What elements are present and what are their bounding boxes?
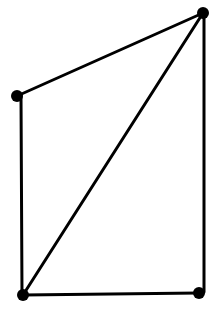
edge-left-bottom-left — [21, 96, 22, 295]
graph-diagram — [0, 0, 221, 321]
node-bottom-right — [193, 287, 205, 299]
edges-group — [17, 13, 204, 295]
node-left — [11, 90, 23, 102]
node-top-right — [197, 7, 209, 19]
edge-bottom-left-top-right — [23, 13, 203, 295]
edge-bottom-left-bottom-right — [23, 293, 199, 295]
node-bottom-left — [17, 289, 29, 301]
